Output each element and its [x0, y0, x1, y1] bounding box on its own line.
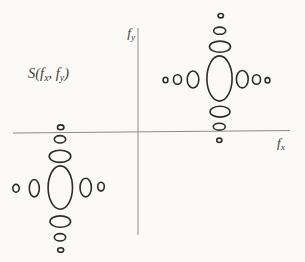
x-axis-label: fx [277, 136, 285, 150]
upper-right-cluster-left-lobe-3 [163, 77, 168, 82]
x-axis-subscript: x [281, 142, 285, 152]
lower-left-cluster-bottom-lobe-2 [54, 234, 65, 241]
spectrum-diagram [0, 0, 305, 262]
upper-right-cluster-left-lobe-2 [174, 75, 182, 85]
lower-left-cluster-bottom-lobe-3 [58, 248, 64, 253]
upper-right-cluster-top-lobe-3 [218, 14, 223, 18]
upper-right-cluster-top-lobe-2 [214, 27, 226, 34]
spectrum-label-separator: , [49, 65, 56, 81]
lower-left-cluster-top-lobe-1 [49, 150, 71, 162]
lower-left-cluster-center-lobe [48, 166, 72, 209]
spectrum-function-label: S(fx, fy) [28, 66, 69, 81]
lower-left-cluster-left-lobe-2 [13, 184, 19, 192]
lower-left-cluster-top-lobe-3 [58, 125, 64, 130]
lower-left-cluster-right-lobe-2 [98, 182, 105, 191]
x-axis-line [13, 131, 290, 134]
spectrum-label-suffix: ) [64, 65, 69, 81]
y-axis-subscript: y [131, 32, 135, 42]
upper-right-cluster-bottom-lobe-3 [217, 138, 222, 142]
upper-right-cluster-left-lobe-1 [187, 71, 199, 88]
lower-left-cluster-top-lobe-2 [54, 136, 65, 143]
lower-left-cluster-left-lobe-1 [29, 180, 39, 197]
figure-canvas: S(fx, fy) fy fx [0, 0, 305, 262]
upper-right-cluster-center-lobe [207, 56, 232, 101]
spectrum-label-prefix: S( [28, 65, 40, 81]
y-axis-label: fy [119, 26, 135, 40]
upper-right-cluster-bottom-lobe-2 [213, 123, 225, 130]
upper-right-cluster-right-lobe-3 [265, 78, 270, 83]
lower-left-cluster-bottom-lobe-1 [50, 216, 71, 227]
upper-right-cluster-right-lobe-2 [253, 75, 261, 85]
upper-right-cluster-top-lobe-1 [210, 41, 231, 52]
upper-right-cluster-bottom-lobe-1 [210, 106, 230, 117]
lower-left-cluster-right-lobe-1 [80, 178, 91, 197]
upper-right-cluster-right-lobe-1 [236, 71, 248, 88]
